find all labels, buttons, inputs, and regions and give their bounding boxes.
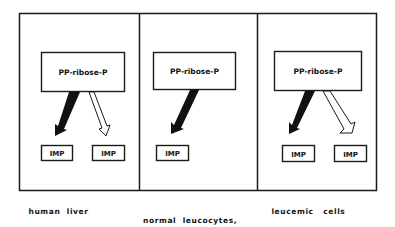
caption-line: human liver	[28, 207, 88, 216]
target-label: IMP	[291, 151, 306, 159]
filled-arrow-icon	[289, 91, 315, 134]
hollow-arrow-icon	[323, 91, 355, 133]
source-label: PP-ribose-P	[59, 68, 108, 77]
caption-leucemic-cells: leucemic cells	[265, 198, 345, 216]
target-label: IMP	[101, 150, 116, 158]
target-label: IMP	[50, 150, 65, 158]
target-label: IMP	[165, 150, 180, 158]
caption-normal-leucocytes: normal leucocytes, bone marrow	[143, 198, 237, 227]
panel-normal-leucocytes: PP-ribose-P IMP	[154, 53, 236, 161]
target-label: IMP	[343, 151, 358, 159]
panel-leucemic-cells: PP-ribose-P IMP IMP	[275, 52, 367, 162]
filled-arrow-icon	[55, 92, 80, 136]
source-label: PP-ribose-P	[294, 67, 343, 76]
caption-line: normal leucocytes,	[143, 216, 237, 225]
filled-arrow-icon	[171, 90, 199, 134]
caption-line: leucemic cells	[271, 207, 345, 216]
panel-human-liver: PP-ribose-P IMP IMP	[42, 53, 125, 161]
diagram-canvas: PP-ribose-P IMP IMP PP-ribose-P IMP PP-r…	[0, 0, 395, 227]
hollow-arrow-icon	[89, 92, 110, 136]
source-label: PP-ribose-P	[170, 67, 219, 76]
caption-human-liver: human liver	[22, 198, 89, 216]
